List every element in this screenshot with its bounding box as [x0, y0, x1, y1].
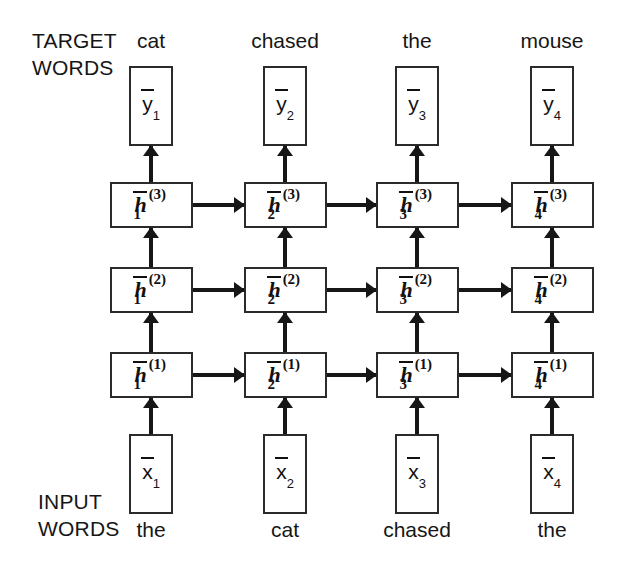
arrowhead-up-icon [544, 397, 560, 408]
arrow-x1-to-h1-1 [149, 398, 153, 434]
output-node-y1[interactable]: y1 [129, 66, 173, 146]
hidden-node-h2-layer2[interactable]: h2(2) [244, 267, 327, 313]
output-node-y1-base: y [142, 93, 153, 114]
arrowhead-right-icon [501, 367, 512, 383]
arrow-h2-4-to-h3-4 [550, 228, 554, 267]
input-node-x1-subscript: 1 [153, 476, 160, 491]
arrowhead-up-icon [143, 227, 159, 238]
target-word-1: cat [137, 30, 165, 51]
output-node-y4[interactable]: y4 [530, 66, 574, 146]
input-node-x4-base: x [543, 461, 554, 482]
arrow-h2-2-to-h3-2 [283, 228, 287, 267]
arrowhead-right-icon [234, 367, 245, 383]
input-words-label-line2: WORDS [38, 516, 120, 543]
arrowhead-up-icon [409, 227, 425, 238]
arrow-h3-2-to-h3-3 [327, 203, 376, 207]
arrow-h1-2-to-h2-2 [283, 313, 287, 352]
arrow-h1-4-to-h2-4 [550, 313, 554, 352]
input-word-3: chased [383, 519, 451, 540]
arrow-h2-3-to-h3-3 [415, 228, 419, 267]
hidden-node-h3-layer2-label: h3(2) [400, 279, 434, 301]
hidden-node-h1-layer1-superscript: (1) [149, 357, 167, 372]
input-node-x2-base: x [276, 461, 287, 482]
input-node-x1-label: x1 [142, 461, 160, 486]
arrow-h3-4-to-y4 [550, 146, 554, 182]
hidden-node-h4-layer1-subscript: 4 [534, 377, 542, 392]
hidden-node-h1-layer3[interactable]: h1(3) [110, 182, 193, 228]
arrow-h3-2-to-y2 [283, 146, 287, 182]
hidden-node-h4-layer1[interactable]: h4(1) [511, 352, 594, 398]
hidden-node-h3-layer3-subscript: 3 [399, 207, 407, 222]
hidden-node-h1-layer1[interactable]: h1(1) [110, 352, 193, 398]
hidden-node-h3-layer2[interactable]: h3(2) [376, 267, 459, 313]
hidden-node-h4-layer2[interactable]: h4(2) [511, 267, 594, 313]
input-node-x4[interactable]: x4 [530, 434, 574, 514]
hidden-node-h2-layer1-label: h2(1) [268, 364, 302, 386]
input-words-label-line1: INPUT [38, 489, 120, 516]
input-word-1: the [136, 519, 165, 540]
arrowhead-right-icon [366, 197, 377, 213]
input-word-4: the [537, 519, 566, 540]
hidden-node-h4-layer1-superscript: (1) [550, 357, 568, 372]
arrowhead-right-icon [366, 367, 377, 383]
input-node-x1[interactable]: x1 [129, 434, 173, 514]
input-node-x2-label: x2 [276, 461, 294, 486]
output-node-y1-label: y1 [142, 93, 160, 118]
hidden-node-h2-layer3-label: h2(3) [268, 194, 302, 216]
hidden-node-h1-layer3-subscript: 1 [133, 207, 141, 222]
arrow-h3-3-to-y3 [415, 146, 419, 182]
hidden-node-h3-layer1[interactable]: h3(1) [376, 352, 459, 398]
input-word-2: cat [271, 519, 299, 540]
hidden-node-h1-layer1-subscript: 1 [133, 377, 141, 392]
arrowhead-up-icon [277, 312, 293, 323]
hidden-node-h2-layer1-subscript: 2 [267, 377, 275, 392]
input-node-x1-base: x [142, 461, 153, 482]
target-words-label-line2: WORDS [32, 55, 117, 82]
target-word-4: mouse [520, 30, 583, 51]
arrowhead-right-icon [234, 197, 245, 213]
hidden-node-h2-layer3-subscript: 2 [267, 207, 275, 222]
output-node-y4-label: y4 [543, 93, 561, 118]
output-node-y2[interactable]: y2 [263, 66, 307, 146]
arrowhead-up-icon [143, 145, 159, 156]
hidden-node-h4-layer3[interactable]: h4(3) [511, 182, 594, 228]
arrow-h1-1-to-h1-2 [193, 373, 244, 377]
hidden-node-h3-layer1-superscript: (1) [415, 357, 433, 372]
rnn-diagram-canvas: TARGET WORDS INPUT WORDS cat chased the … [0, 0, 621, 576]
input-node-x2[interactable]: x2 [263, 434, 307, 514]
hidden-node-h1-layer2-superscript: (2) [149, 272, 167, 287]
input-node-x3[interactable]: x3 [395, 434, 439, 514]
output-node-y3-subscript: 3 [419, 108, 426, 123]
arrow-h3-1-to-y1 [149, 146, 153, 182]
hidden-node-h1-layer2-subscript: 1 [133, 292, 141, 307]
output-node-y4-subscript: 4 [554, 108, 561, 123]
arrowhead-up-icon [544, 145, 560, 156]
arrow-h3-1-to-h3-2 [193, 203, 244, 207]
arrowhead-right-icon [366, 282, 377, 298]
output-node-y4-base: y [543, 93, 554, 114]
arrow-h1-1-to-h2-1 [149, 313, 153, 352]
hidden-node-h1-layer2[interactable]: h1(2) [110, 267, 193, 313]
input-node-x3-base: x [408, 461, 419, 482]
output-node-y3[interactable]: y3 [395, 66, 439, 146]
input-node-x3-label: x3 [408, 461, 426, 486]
arrow-h1-3-to-h1-4 [459, 373, 511, 377]
arrow-h2-3-to-h2-4 [459, 288, 511, 292]
hidden-node-h1-layer2-label: h1(2) [134, 279, 168, 301]
arrow-h2-1-to-h2-2 [193, 288, 244, 292]
arrow-h3-3-to-h3-4 [459, 203, 511, 207]
hidden-node-h3-layer2-superscript: (2) [415, 272, 433, 287]
arrowhead-up-icon [143, 397, 159, 408]
output-node-y2-base: y [276, 93, 287, 114]
hidden-node-h2-layer3[interactable]: h2(3) [244, 182, 327, 228]
input-node-x4-subscript: 4 [554, 476, 561, 491]
target-words-label: TARGET WORDS [32, 28, 117, 82]
arrow-x2-to-h1-2 [283, 398, 287, 434]
hidden-node-h3-layer3[interactable]: h3(3) [376, 182, 459, 228]
hidden-node-h2-layer2-superscript: (2) [283, 272, 301, 287]
hidden-node-h4-layer2-subscript: 4 [534, 292, 542, 307]
output-node-y2-label: y2 [276, 93, 294, 118]
hidden-node-h4-layer2-label: h4(2) [535, 279, 569, 301]
output-node-y1-subscript: 1 [153, 108, 160, 123]
hidden-node-h2-layer1[interactable]: h2(1) [244, 352, 327, 398]
